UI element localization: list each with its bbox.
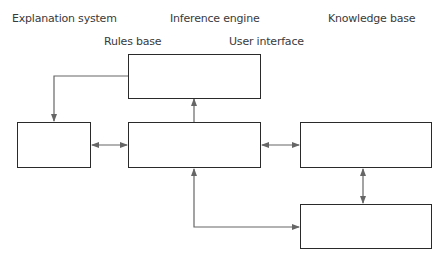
arrow-center-right-lower [194,169,299,227]
top-box [128,54,261,99]
right-upper-box [300,122,432,168]
arrow-top-to-left [54,76,128,121]
left-box [17,122,91,168]
right-lower-box [300,204,432,249]
center-box [128,122,261,168]
